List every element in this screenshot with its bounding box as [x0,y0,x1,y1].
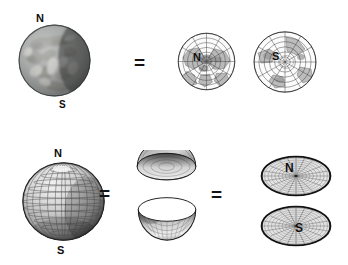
equals-operator-bottom-left: = [99,184,110,203]
figure-canvas: N S = [0,0,348,265]
equals-operator-bottom-right: = [211,185,222,204]
polar-map-projection-south [253,31,317,93]
label-north-polar-projection: N [193,52,201,63]
label-north-wireframe-globe: N [54,148,62,159]
polar-map-projection-north [177,32,236,91]
label-north-flat-disk: N [285,162,294,174]
hemisphere-dome-north [136,150,197,193]
label-south-photographic-globe: S [59,100,66,110]
wireframe-globe [21,161,106,242]
flat-polar-disk-north [260,155,332,197]
hemisphere-bowl-south [137,197,197,243]
label-south-wireframe-globe: S [57,245,64,256]
photographic-globe [18,24,91,97]
label-south-polar-projection: S [272,51,279,62]
equals-operator-top: = [134,53,145,72]
label-south-flat-disk: S [295,222,303,234]
label-north-photographic-globe: N [36,13,44,24]
